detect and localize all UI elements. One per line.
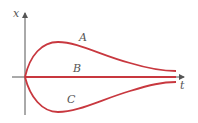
curve-a [25,42,176,77]
curve-b-label: B [72,62,81,75]
curve-a-label: A [78,31,87,44]
curve-c [25,77,176,112]
diagram-canvas: x t A B C [0,0,198,123]
x-axis-label: x [13,7,20,20]
curve-c-label: C [67,93,76,106]
t-axis-label: t [180,79,185,92]
